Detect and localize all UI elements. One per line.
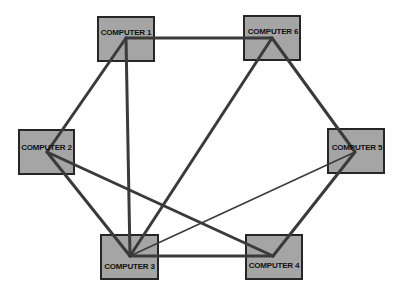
- label-computer-6: COMPUTER 6: [243, 27, 303, 36]
- label-computer-5: COMPUTER 5: [328, 143, 386, 152]
- edge-6-3: [130, 38, 272, 256]
- node-computer-3: [100, 234, 159, 280]
- node-computer-4: [245, 234, 303, 280]
- node-computer-6: [243, 15, 301, 61]
- node-computer-1: [97, 16, 155, 62]
- edge-3-5: [130, 152, 355, 256]
- edge-1-3: [126, 38, 130, 256]
- label-computer-4: COMPUTER 4: [245, 261, 303, 270]
- node-computer-2: [18, 129, 75, 175]
- network-diagram: COMPUTER 1 COMPUTER 6 COMPUTER 2 COMPUTE…: [0, 0, 399, 294]
- label-computer-3: COMPUTER 3: [100, 262, 159, 271]
- label-computer-2: COMPUTER 2: [18, 143, 75, 152]
- edge-2-4: [47, 152, 273, 256]
- label-computer-1: COMPUTER 1: [97, 28, 155, 37]
